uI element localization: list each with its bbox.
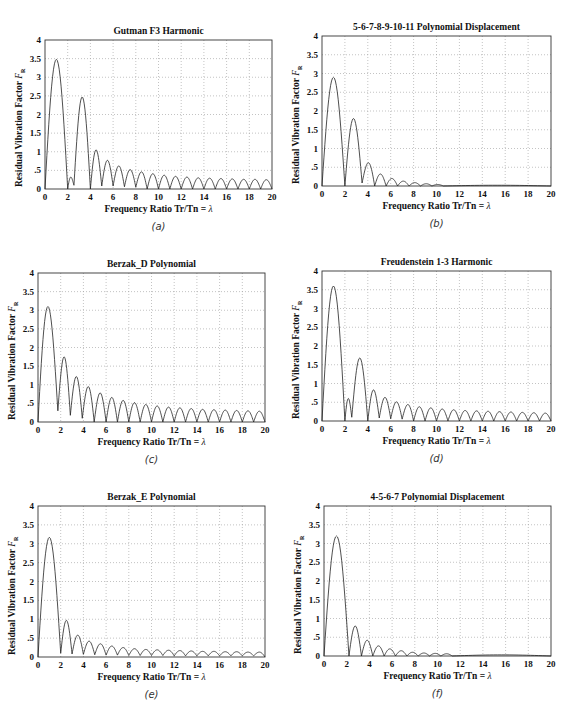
- y-tick-label: 1: [316, 614, 321, 624]
- x-tick-label: 10: [433, 659, 443, 669]
- x-tick-label: 6: [390, 659, 395, 669]
- x-tick-label: 14: [478, 659, 488, 669]
- plot-area: 024681012141618200.511.522.533.54: [0, 0, 565, 715]
- y-tick-label: 3: [316, 539, 321, 549]
- y-axis-label: Residual Vibration Factor FR: [293, 536, 305, 654]
- y-tick-label: 3.5: [309, 520, 321, 530]
- panel-caption: (f): [432, 688, 443, 699]
- x-axis-label-text: Frequency Ratio Tr/Tn =: [383, 671, 487, 681]
- y-tick-label: 1.5: [309, 595, 321, 605]
- y-tick-label: 2: [316, 576, 321, 586]
- y-tick-label: 0: [316, 651, 321, 661]
- x-tick-label: 4: [367, 659, 372, 669]
- fr-subscript: R: [299, 536, 305, 540]
- x-tick-label: 18: [524, 659, 534, 669]
- x-tick-label: 16: [501, 659, 511, 669]
- y-tick-label: .5: [313, 632, 320, 642]
- fr-symbol: F: [293, 540, 303, 546]
- x-tick-label: 8: [413, 659, 418, 669]
- x-tick-label: 12: [456, 659, 466, 669]
- x-tick-label: 0: [322, 659, 327, 669]
- x-tick-label: 2: [344, 659, 349, 669]
- lambda-symbol: λ: [488, 671, 492, 681]
- y-tick-label: 2.5: [309, 557, 321, 567]
- x-tick-label: 20: [547, 659, 557, 669]
- x-axis-label: Frequency Ratio Tr/Tn = λ: [383, 671, 491, 681]
- y-tick-label: 4: [316, 501, 321, 511]
- y-axis-label-text: Residual Vibration Factor: [293, 546, 303, 654]
